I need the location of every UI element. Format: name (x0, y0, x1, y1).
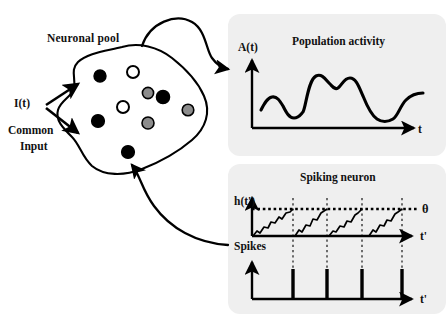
input-label: Input (20, 141, 48, 153)
membrane-x-axis-label: t' (420, 231, 427, 243)
diagram-vector-layer (0, 0, 448, 318)
arrow-spiking-neuron-to-pool (132, 165, 228, 245)
neuronal-pool-label: Neuronal pool (47, 33, 119, 45)
neuron-dot (156, 90, 169, 103)
neuron-dot (122, 146, 135, 159)
common-input-function-label: I(t) (14, 98, 30, 110)
population-activity-title: Population activity (292, 36, 385, 48)
spikes-x-axis-label: t' (420, 294, 427, 306)
neuron-dot (117, 101, 129, 113)
figure-canvas: Neuronal pool I(t) Common Input Populati… (0, 0, 448, 318)
population-y-axis-label: A(t) (238, 42, 258, 54)
neuron-dot (127, 66, 139, 78)
population-x-axis-label: t (418, 124, 422, 136)
neuron-dot (94, 70, 106, 82)
neuron-dot (142, 117, 154, 129)
neuron-dot (142, 87, 153, 98)
neuron-dot (182, 104, 194, 116)
membrane-potential-axis-label: h(t') (234, 196, 255, 208)
spiking-neuron-title: Spiking neuron (300, 172, 376, 184)
neuron-dot (92, 115, 105, 128)
threshold-label: θ (422, 203, 429, 216)
spikes-label: Spikes (234, 241, 266, 253)
common-label: Common (8, 125, 53, 137)
spiking-panel-background (228, 164, 446, 314)
